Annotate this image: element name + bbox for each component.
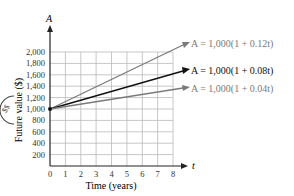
svg-text:4: 4	[109, 169, 114, 179]
x-axis-arrow-icon	[181, 163, 188, 169]
svg-text:5: 5	[125, 169, 129, 179]
svg-text:1,400: 1,400	[26, 81, 45, 91]
series-annotations: A = 1,000(1 + 0.12t) A = 1,000(1 + 0.08t…	[191, 38, 273, 95]
arrow-12pct-icon	[182, 42, 190, 48]
svg-text:2,000: 2,000	[26, 47, 45, 57]
svg-text:1,600: 1,600	[26, 70, 45, 80]
arrow-8pct-icon	[182, 67, 190, 74]
svg-text:0: 0	[48, 169, 52, 179]
x-axis-title: Time (years)	[85, 180, 136, 192]
dollar-badge-icon: $$	[0, 96, 14, 124]
svg-text:400: 400	[32, 138, 45, 148]
annotation-8pct: A = 1,000(1 + 0.08t)	[191, 65, 273, 77]
x-axis-symbol: t	[192, 160, 195, 171]
x-tick-labels: 0 1 2 3 4 5 6 7 8	[48, 169, 175, 179]
grid	[50, 52, 173, 166]
svg-text:3: 3	[94, 169, 98, 179]
svg-text:600: 600	[32, 127, 45, 137]
svg-text:1,800: 1,800	[26, 58, 45, 68]
svg-text:8: 8	[171, 169, 175, 179]
svg-text:1,200: 1,200	[26, 93, 45, 103]
y-axis-arrow-icon	[47, 25, 53, 32]
y-axis-title: Future value ($)	[13, 78, 25, 142]
svg-text:1,000: 1,000	[26, 104, 45, 114]
y-axis-symbol: A	[45, 13, 53, 24]
y-tick-labels: 2,000 1,800 1,600 1,400 1,200 1,000 800 …	[26, 47, 45, 160]
svg-text:7: 7	[155, 169, 159, 179]
line-4pct	[50, 88, 183, 109]
chart: A t 2,000 1,800 1,600 1,400 1,200 1,000 …	[0, 0, 294, 196]
chart-svg: A t 2,000 1,800 1,600 1,400 1,200 1,000 …	[0, 0, 294, 196]
svg-text:1: 1	[63, 169, 67, 179]
annotation-12pct: A = 1,000(1 + 0.12t)	[191, 38, 273, 50]
svg-text:$$: $$	[0, 103, 12, 114]
svg-text:6: 6	[140, 169, 144, 179]
annotation-4pct: A = 1,000(1 + 0.04t)	[191, 83, 273, 95]
svg-text:200: 200	[32, 150, 45, 160]
arrow-4pct-icon	[182, 85, 190, 91]
svg-text:800: 800	[32, 115, 45, 125]
svg-text:2: 2	[79, 169, 83, 179]
